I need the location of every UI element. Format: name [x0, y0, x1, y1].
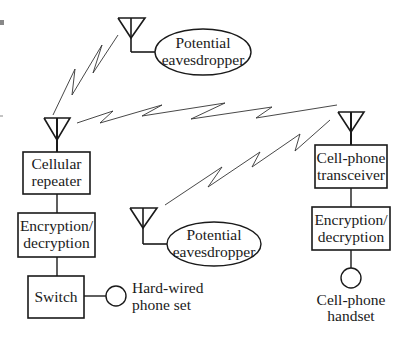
switch-label: Switch	[34, 288, 77, 305]
eavesdropper-middle: Potential eavesdropper	[130, 208, 261, 266]
handset-label-2: handset	[327, 307, 375, 324]
antenna-icon	[44, 118, 70, 152]
hard-wired-phone-label-2: phone set	[132, 296, 192, 313]
eavesdropper-top-label-1: Potential	[175, 34, 230, 51]
cellular-repeater-chain: Cellular repeater Encryption/ decryption…	[18, 118, 204, 318]
antenna-icon	[338, 112, 364, 145]
cellular-repeater-label-2: repeater	[32, 172, 83, 189]
cell-phone-handset-icon	[341, 268, 361, 288]
antenna-icon	[118, 18, 145, 52]
hard-wired-phone-label-1: Hard-wired	[132, 279, 204, 296]
hard-wired-phone-icon	[106, 286, 126, 306]
transceiver-label-1: Cell-phone	[317, 149, 386, 166]
antenna-icon	[130, 208, 157, 244]
radio-link-diagonal	[165, 120, 330, 205]
radio-link-main	[77, 103, 337, 123]
encryption-left-label-1: Encryption/	[20, 217, 94, 234]
encryption-left-label-2: decryption	[23, 234, 90, 251]
eavesdropper-middle-label-2: eavesdropper	[173, 243, 256, 260]
cell-phone-chain: Cell-phone transceiver Encryption/ decry…	[312, 112, 390, 324]
scan-mark	[0, 20, 4, 25]
eavesdropper-middle-label-1: Potential	[186, 226, 241, 243]
diagram-canvas: Potential eavesdropper Cellular repeater…	[0, 0, 410, 338]
eavesdropper-top-label-2: eavesdropper	[162, 51, 245, 68]
handset-label-1: Cell-phone	[317, 291, 386, 308]
encryption-right-label-1: Encryption/	[314, 211, 388, 228]
eavesdropper-top: Potential eavesdropper	[118, 18, 251, 75]
transceiver-label-2: transceiver	[317, 166, 386, 183]
encryption-right-label-2: decryption	[318, 228, 385, 245]
cellular-repeater-label-1: Cellular	[32, 155, 83, 172]
radio-link-top	[53, 35, 118, 115]
